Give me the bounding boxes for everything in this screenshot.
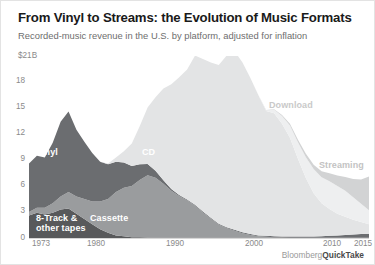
y-tick-15: 15 [16, 102, 25, 111]
y-tick-9: 9 [20, 154, 25, 163]
x-tick-1980: 1980 [87, 239, 105, 248]
chart-card: From Vinyl to Streams: the Evolution of … [0, 0, 375, 265]
chart-subtitle: Recorded-music revenue in the U.S. by pl… [18, 30, 307, 41]
x-tick-2010: 2010 [323, 239, 341, 248]
y-tick-6: 6 [20, 180, 25, 189]
y-tick-3: 3 [20, 206, 25, 215]
x-tick-2000: 2000 [245, 239, 263, 248]
x-tick-1990: 1990 [166, 239, 184, 248]
stacked-area-svg [29, 56, 369, 238]
y-tick-18: 18 [16, 76, 25, 85]
page-title: From Vinyl to Streams: the Evolution of … [18, 10, 352, 25]
series-label-download: Download [269, 100, 313, 110]
series-label-vinyl: Vinyl [36, 147, 58, 157]
y-tick-12: 12 [16, 128, 25, 137]
brand-footer: BloombergQuickTake [282, 250, 364, 260]
area-chart-plot [29, 56, 369, 238]
series-label-8track-line2: other tapes [36, 223, 86, 233]
x-tick-2015: 2015 [354, 239, 372, 248]
y-axis-labels: 18 15 12 9 6 3 0 [1, 1, 29, 265]
series-label-streaming: Streaming [319, 160, 364, 170]
brand-quicktake: QuickTake [322, 250, 364, 260]
x-tick-1973: 1973 [32, 239, 50, 248]
series-label-cassette: Cassette [90, 213, 128, 223]
series-label-8track: 8-Track & [36, 213, 77, 223]
series-label-cd: CD [142, 147, 155, 157]
brand-bloomberg: Bloomberg [282, 250, 323, 260]
